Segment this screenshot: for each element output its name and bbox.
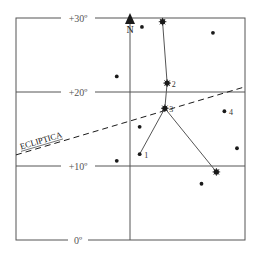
- star-label: 1: [144, 151, 148, 160]
- star-b: [159, 18, 167, 26]
- star-icon: [200, 182, 204, 186]
- star-label: 2: [172, 80, 176, 89]
- north-label: N: [126, 24, 133, 35]
- stars: 2341: [115, 18, 239, 186]
- star-icon: [138, 125, 142, 129]
- star-icon: [138, 152, 142, 156]
- gridline-label: +20º: [69, 87, 88, 98]
- star-chart: +30º+20º+10º0º N ECLIPTICA 2341: [0, 0, 254, 259]
- star-icon: [235, 146, 239, 150]
- gridline-label: +10º: [69, 161, 88, 172]
- star-f: [235, 146, 239, 150]
- star-icon: [115, 75, 119, 79]
- star-a: [140, 25, 144, 29]
- constellation-lines: [140, 22, 217, 172]
- star-g: [115, 159, 119, 163]
- star-d: [115, 75, 119, 79]
- star-s1: 1: [138, 151, 148, 160]
- ecliptic-label: ECLIPTICA: [19, 129, 64, 151]
- gridline-label: 0º: [74, 235, 82, 246]
- gridline-label: +30º: [69, 13, 88, 24]
- star-icon: [222, 109, 226, 113]
- star-c: [211, 31, 215, 35]
- star-icon: [211, 31, 215, 35]
- star-label: 3: [169, 105, 173, 114]
- constellation-line: [163, 22, 168, 83]
- star-s4: 4: [222, 108, 232, 117]
- constellation-line: [140, 108, 165, 154]
- star-s2: 2: [163, 79, 175, 88]
- star-h: [213, 168, 221, 176]
- star-label: 4: [229, 108, 233, 117]
- star-icon: [140, 25, 144, 29]
- star-icon: [115, 159, 119, 163]
- constellation-line: [165, 108, 217, 172]
- star-e: [138, 125, 142, 129]
- star-i: [200, 182, 204, 186]
